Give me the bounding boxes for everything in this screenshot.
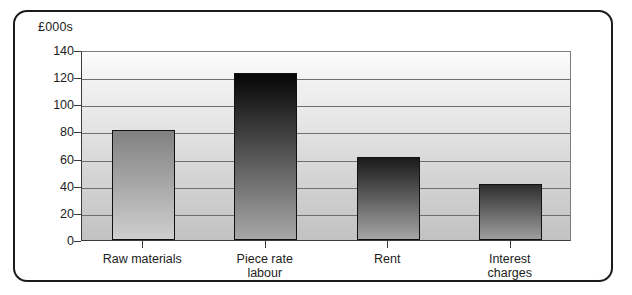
bar	[234, 73, 297, 240]
gridline	[82, 106, 570, 107]
y-axis-tick-label: 0	[67, 234, 74, 248]
x-axis-category-label: Raw materials	[81, 252, 204, 266]
y-axis-tick-mark	[74, 105, 81, 106]
x-axis-category-label: Rent	[326, 252, 449, 266]
y-axis-tick-label: 120	[53, 71, 74, 85]
bar	[112, 130, 175, 240]
y-axis-tick-mark	[74, 241, 81, 242]
x-axis-category-label: Interest charges	[449, 252, 572, 280]
y-axis-tick-mark	[74, 78, 81, 79]
y-axis-tick-label: 40	[60, 180, 74, 194]
x-axis-tick-mark	[387, 241, 388, 248]
y-axis-tick-label: 100	[53, 98, 74, 112]
x-axis-tick-mark	[510, 241, 511, 248]
plot-area	[81, 51, 571, 241]
bar	[479, 184, 542, 240]
y-axis-tick-label: 80	[60, 125, 74, 139]
y-axis-tick-mark	[74, 187, 81, 188]
x-axis-category-label: Piece rate labour	[204, 252, 327, 280]
y-axis-tick-mark	[74, 214, 81, 215]
chart-figure: £000s 020406080100120140 Raw materialsPi…	[0, 0, 632, 295]
y-axis-tick-labels: 020406080100120140	[22, 51, 74, 241]
y-axis-unit-label: £000s	[38, 20, 73, 34]
y-axis-tick-label: 140	[53, 44, 74, 58]
bar	[357, 157, 420, 240]
x-axis-tick-mark	[265, 241, 266, 248]
y-axis-tick-label: 20	[60, 207, 74, 221]
y-axis-tick-label: 60	[60, 153, 74, 167]
y-axis-tick-mark	[74, 132, 81, 133]
x-axis-tick-mark	[142, 241, 143, 248]
y-axis-tick-mark	[74, 160, 81, 161]
y-axis-tick-mark	[74, 51, 81, 52]
gridline	[82, 79, 570, 80]
